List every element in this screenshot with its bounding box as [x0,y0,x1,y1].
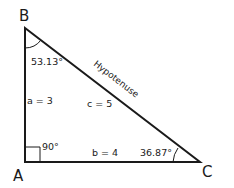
vertex-label-a: A [13,167,24,185]
angle-label-c: 36.87° [140,147,172,158]
right-angle-marker [25,147,40,162]
side-label-a: a = 3 [27,95,53,106]
triangle-diagram: B A C 53.13° 90° 36.87° a = 3 b = 4 c = … [0,0,234,188]
side-label-b: b = 4 [92,147,118,158]
angle-arc-c [173,148,178,162]
angle-label-b: 53.13° [31,56,63,67]
triangle-svg: B A C 53.13° 90° 36.87° a = 3 b = 4 c = … [0,0,234,188]
vertex-label-c: C [202,163,212,181]
vertex-label-b: B [19,7,29,25]
angle-arc-b [25,40,41,48]
hypotenuse-label: Hypotenuse [92,59,141,100]
angle-label-a: 90° [42,141,59,152]
side-label-c: c = 5 [87,98,112,109]
